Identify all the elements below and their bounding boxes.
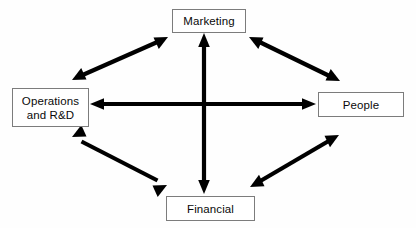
node-people[interactable]: People [318, 92, 404, 117]
connector-financial-people [250, 135, 339, 187]
node-operations-label-line1: Operations [22, 94, 79, 108]
node-financial-label: Financial [187, 202, 234, 216]
connector-marketing-financial [198, 33, 210, 194]
node-operations[interactable]: Operations and R&D [12, 88, 89, 127]
diagram-canvas: Marketing Operations and R&D People Fina… [0, 0, 416, 228]
node-people-label: People [343, 98, 379, 112]
connector-operations-marketing [72, 37, 168, 80]
connector-operations-financial [72, 125, 167, 197]
node-operations-label-line2: and R&D [27, 108, 74, 122]
node-marketing-label: Marketing [183, 14, 234, 28]
node-financial[interactable]: Financial [166, 196, 255, 221]
connector-marketing-people [249, 37, 340, 81]
node-marketing[interactable]: Marketing [172, 9, 246, 33]
